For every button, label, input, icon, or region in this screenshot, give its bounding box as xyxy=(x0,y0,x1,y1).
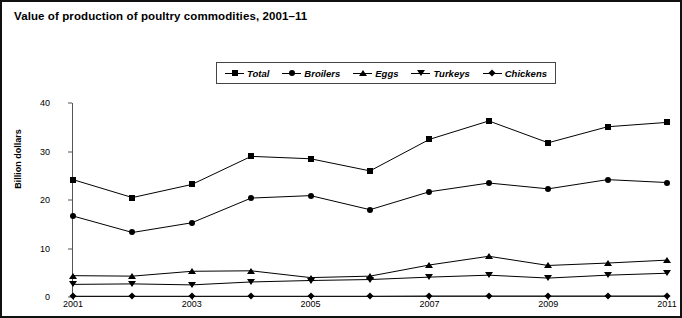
triangle-down-marker-icon xyxy=(69,281,77,287)
triangle-down-marker-icon xyxy=(604,272,612,278)
y-axis-tick-mark xyxy=(68,103,72,104)
circle-marker-icon xyxy=(189,220,195,226)
triangle-up-marker-icon xyxy=(69,273,77,279)
square-marker-icon xyxy=(129,195,135,201)
x-axis-tick-label: 2003 xyxy=(182,299,202,309)
square-marker-icon xyxy=(545,140,551,146)
y-axis-tick-mark xyxy=(68,151,72,152)
x-axis-tick-label: 2001 xyxy=(63,299,83,309)
x-axis-tick-label: 2009 xyxy=(538,299,558,309)
triangle-down-marker-icon xyxy=(425,274,433,280)
circle-marker-icon xyxy=(545,186,551,192)
triangle-up-marker-icon xyxy=(425,262,433,268)
circle-marker-icon xyxy=(248,195,254,201)
y-axis-tick-label: 30 xyxy=(40,147,50,157)
square-marker-icon xyxy=(426,136,432,142)
triangle-down-marker-icon xyxy=(366,277,374,283)
circle-marker-icon xyxy=(605,177,611,183)
triangle-down-marker-icon xyxy=(188,282,196,288)
x-axis-tick-label: 2007 xyxy=(419,299,439,309)
square-marker-icon xyxy=(308,156,314,162)
circle-marker-icon xyxy=(129,229,135,235)
triangle-up-marker-icon xyxy=(485,253,493,259)
triangle-down-marker-icon xyxy=(247,279,255,285)
circle-marker-icon xyxy=(426,189,432,195)
triangle-up-marker-icon xyxy=(544,262,552,268)
triangle-up-marker-icon xyxy=(128,273,136,279)
triangle-down-marker-icon xyxy=(544,275,552,281)
x-axis-tick-label: 2011 xyxy=(657,299,676,309)
square-marker-icon xyxy=(605,124,611,130)
square-marker-icon xyxy=(70,177,76,183)
square-marker-icon xyxy=(486,118,492,124)
triangle-down-marker-icon xyxy=(663,270,671,276)
y-axis-tick-label: 0 xyxy=(45,292,50,302)
y-axis-tick-mark xyxy=(68,248,72,249)
y-axis-tick-mark xyxy=(68,200,72,201)
triangle-down-marker-icon xyxy=(307,278,315,284)
x-axis-tick-label: 2005 xyxy=(301,299,321,309)
triangle-up-marker-icon xyxy=(663,257,671,263)
square-marker-icon xyxy=(664,119,670,125)
circle-marker-icon xyxy=(70,213,76,219)
triangle-down-marker-icon xyxy=(485,272,493,278)
circle-marker-icon xyxy=(664,180,670,186)
y-axis-tick-label: 40 xyxy=(40,98,50,108)
square-marker-icon xyxy=(248,153,254,159)
circle-marker-icon xyxy=(486,180,492,186)
triangle-up-marker-icon xyxy=(188,268,196,274)
triangle-down-marker-icon xyxy=(128,281,136,287)
triangle-up-marker-icon xyxy=(604,260,612,266)
y-axis-tick-label: 10 xyxy=(40,244,50,254)
y-axis-tick-label: 20 xyxy=(40,195,50,205)
triangle-up-marker-icon xyxy=(247,268,255,274)
circle-marker-icon xyxy=(308,193,314,199)
chart-panel: Value of production of poultry commoditi… xyxy=(0,0,682,318)
circle-marker-icon xyxy=(367,207,373,213)
square-marker-icon xyxy=(189,181,195,187)
plot-area xyxy=(73,103,667,297)
square-marker-icon xyxy=(367,168,373,174)
